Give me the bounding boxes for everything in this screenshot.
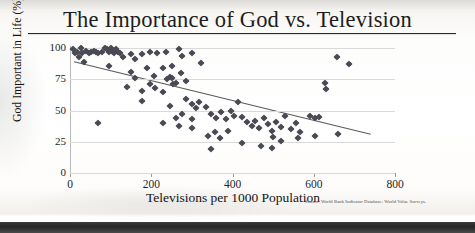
scan-edge-bottom [0,222,475,233]
plot-area [70,48,395,173]
x-tick-mark [395,173,396,177]
y-tick-label: 100 [32,41,66,53]
gridline-y [70,142,395,143]
y-tick-label: 0 [32,166,66,178]
title-underline-rule [28,33,456,34]
y-tick-label: 75 [32,72,66,84]
x-tick-label: 600 [294,178,334,190]
x-tick-label: 400 [213,178,253,190]
x-tick-label: 200 [131,178,171,190]
y-axis-title: God Important in Life (%) [10,0,25,140]
y-tick-label: 50 [32,104,66,116]
y-axis-tick-labels: 0255075100 [26,0,66,233]
x-tick-label: 800 [375,178,415,190]
chart-title: The Importance of God vs. Television [0,7,475,33]
source-note: Source: World Bank Indicator Database; W… [305,199,460,206]
gridline-y [70,79,395,80]
x-tick-label: 0 [50,178,90,190]
y-tick-label: 25 [32,135,66,147]
gridline-y [70,173,395,174]
